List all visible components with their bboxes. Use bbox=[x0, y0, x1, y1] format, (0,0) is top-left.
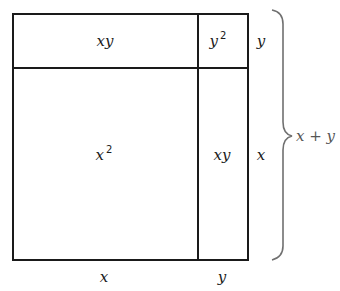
side-label-right-top: y bbox=[256, 32, 266, 50]
outer-square bbox=[13, 14, 248, 260]
region-bottom-right-label: xy bbox=[214, 146, 231, 164]
side-label-bottom-left: x bbox=[100, 268, 109, 286]
side-label-bottom-right: y bbox=[217, 268, 227, 286]
curly-brace bbox=[272, 10, 292, 260]
region-top-right-label: y2 bbox=[209, 30, 227, 50]
square-diagram: xy y2 x2 xy y x x y x + y bbox=[0, 0, 340, 291]
side-label-right-bottom: x bbox=[257, 146, 266, 164]
brace-label: x + y bbox=[296, 127, 336, 145]
region-top-left-label: xy bbox=[97, 32, 114, 50]
region-bottom-left-label: x2 bbox=[96, 144, 113, 164]
